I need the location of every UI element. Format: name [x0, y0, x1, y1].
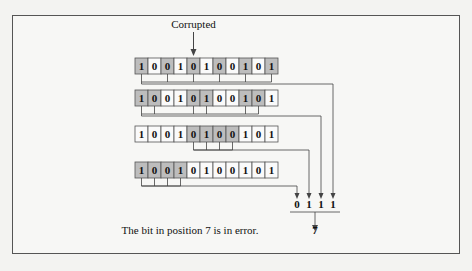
bit-value: 0: [152, 164, 158, 176]
bit-value: 0: [217, 164, 223, 176]
bit-value: 1: [243, 164, 249, 176]
bit-value: 0: [256, 92, 262, 104]
bit-value: 1: [178, 128, 184, 140]
bit-value: 1: [243, 92, 249, 104]
bit-value: 0: [152, 92, 158, 104]
arrow-down-icon: [191, 49, 197, 56]
syndrome-bit: 0: [294, 198, 300, 210]
bit-value: 1: [243, 128, 249, 140]
bit-value: 1: [269, 128, 275, 140]
syndrome-bit: 1: [330, 198, 336, 210]
bit-value: 0: [165, 128, 171, 140]
bit-value: 0: [165, 92, 171, 104]
bit-value: 1: [139, 92, 145, 104]
bit-value: 1: [269, 92, 275, 104]
bit-value: 0: [165, 164, 171, 176]
bit-value: 1: [178, 164, 184, 176]
bit-value: 0: [152, 128, 158, 140]
bit-value: 1: [178, 92, 184, 104]
bit-value: 0: [230, 164, 236, 176]
bit-value: 1: [204, 128, 210, 140]
corrupted-label: Corrupted: [171, 18, 216, 30]
bit-value: 1: [243, 60, 249, 72]
bit-value: 0: [191, 60, 197, 72]
bit-value: 0: [230, 128, 236, 140]
conclusion-text: The bit in position 7 is in error.: [122, 224, 259, 236]
bit-value: 1: [204, 92, 210, 104]
hamming-diagram: Corrupted1001010010110010100101100101001…: [0, 0, 472, 271]
bit-value: 1: [139, 164, 145, 176]
bit-value: 0: [191, 164, 197, 176]
bit-value: 0: [191, 128, 197, 140]
bit-value: 1: [139, 60, 145, 72]
bit-value: 1: [269, 60, 275, 72]
bit-value: 0: [230, 92, 236, 104]
bit-value: 1: [178, 60, 184, 72]
bit-value: 0: [217, 92, 223, 104]
bit-value: 1: [269, 164, 275, 176]
result-position: 7: [312, 224, 318, 236]
bit-value: 0: [191, 92, 197, 104]
bit-value: 1: [204, 164, 210, 176]
syndrome-bit: 1: [318, 198, 324, 210]
bit-value: 0: [256, 128, 262, 140]
bit-value: 0: [165, 60, 171, 72]
bit-value: 0: [230, 60, 236, 72]
bit-value: 0: [256, 60, 262, 72]
bit-value: 0: [152, 60, 158, 72]
bit-value: 0: [256, 164, 262, 176]
syndrome-bit: 1: [306, 198, 312, 210]
bit-value: 1: [139, 128, 145, 140]
bit-value: 1: [204, 60, 210, 72]
bit-value: 0: [217, 128, 223, 140]
bit-value: 0: [217, 60, 223, 72]
